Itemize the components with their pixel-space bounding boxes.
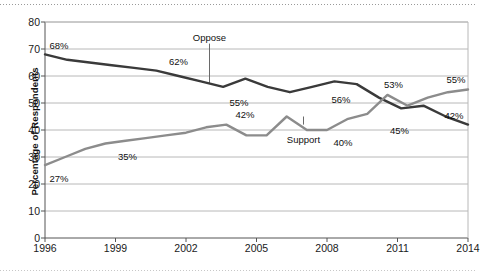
data-point-label: 45% (390, 124, 409, 135)
x-tick-label: 1996 (15, 242, 75, 254)
x-tick-label: 2002 (156, 242, 216, 254)
x-tick-label: 2011 (368, 242, 428, 254)
gridlines (45, 22, 468, 211)
data-point-label: 55% (229, 96, 248, 107)
data-point-label: 42% (444, 109, 463, 120)
data-point-label: 53% (384, 78, 403, 89)
x-tick-label: 1999 (86, 242, 146, 254)
x-tick-label: 2014 (438, 242, 484, 254)
annotation-leader-lines (210, 44, 304, 125)
data-point-label: 56% (331, 93, 350, 104)
data-point-label: 27% (49, 173, 68, 184)
annotation-support: Support (287, 134, 320, 145)
annotation-oppose: Oppose (193, 31, 226, 42)
data-point-label: 35% (118, 150, 137, 161)
x-tick-label: 2005 (227, 242, 287, 254)
data-point-label: 68% (49, 40, 68, 51)
data-series-lines (45, 54, 468, 165)
data-point-label: 62% (169, 55, 188, 66)
data-point-label: 42% (235, 108, 254, 119)
x-tick-label: 2008 (297, 242, 357, 254)
data-point-label: 55% (446, 73, 465, 84)
data-point-label: 40% (333, 137, 352, 148)
